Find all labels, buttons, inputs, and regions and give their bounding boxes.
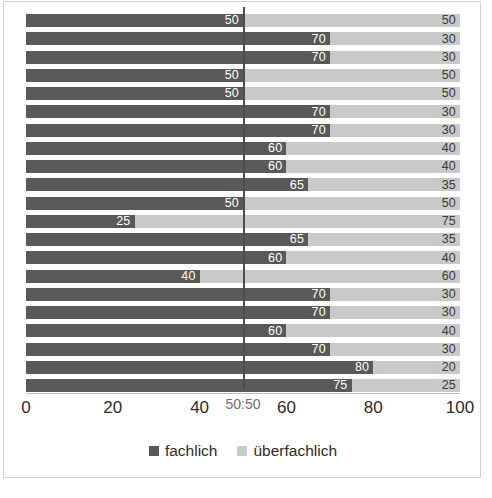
bar-value-label-ueberfachlich: 40 [442, 325, 460, 338]
bar-value-label-fachlich: 40 [181, 270, 199, 283]
x-axis-tick-label: 100 [446, 398, 474, 418]
bar-value-label-fachlich: 75 [333, 379, 351, 392]
bar-segment-fachlich: 60 [26, 251, 286, 264]
chart-root: 5050703070305050505070307030604060406535… [0, 0, 492, 498]
bar-segment-fachlich: 65 [26, 178, 308, 191]
bar-value-label-fachlich: 70 [311, 33, 329, 46]
bar-segment-ueberfachlich: 50 [243, 14, 460, 27]
bar-value-label-ueberfachlich: 50 [442, 69, 460, 82]
bar-value-label-fachlich: 50 [225, 87, 243, 100]
bar-segment-fachlich: 60 [26, 160, 286, 173]
bar-value-label-fachlich: 70 [311, 51, 329, 64]
bar-value-label-fachlich: 60 [268, 325, 286, 338]
bar-value-label-ueberfachlich: 50 [442, 197, 460, 210]
legend-swatch-icon [237, 446, 247, 456]
bar-segment-ueberfachlich: 50 [243, 87, 460, 100]
bar-segment-ueberfachlich: 30 [330, 105, 460, 118]
bar-segment-fachlich: 70 [26, 51, 330, 64]
bar-value-label-fachlich: 70 [311, 306, 329, 319]
bar-segment-ueberfachlich: 30 [330, 32, 460, 45]
bar-segment-ueberfachlich: 30 [330, 306, 460, 319]
bar-segment-ueberfachlich: 20 [373, 361, 460, 374]
legend-item: fachlich [149, 442, 218, 460]
bar-value-label-fachlich: 25 [116, 215, 134, 228]
bar-value-label-ueberfachlich: 30 [442, 106, 460, 119]
bar-value-label-ueberfachlich: 30 [442, 124, 460, 137]
bar-value-label-ueberfachlich: 50 [442, 14, 460, 27]
bar-segment-fachlich: 70 [26, 306, 330, 319]
bar-segment-ueberfachlich: 60 [200, 270, 460, 283]
bar-value-label-ueberfachlich: 25 [442, 379, 460, 392]
bar-segment-ueberfachlich: 50 [243, 69, 460, 82]
bar-segment-ueberfachlich: 40 [286, 142, 460, 155]
bar-segment-fachlich: 25 [26, 215, 135, 228]
x-axis-tick-label: 80 [364, 398, 383, 418]
bar-segment-fachlich: 65 [26, 233, 308, 246]
x-axis-tick-label: 0 [21, 398, 30, 418]
bar-segment-fachlich: 50 [26, 197, 243, 210]
bar-segment-ueberfachlich: 50 [243, 197, 460, 210]
bar-value-label-fachlich: 65 [290, 179, 308, 192]
bar-value-label-fachlich: 65 [290, 233, 308, 246]
x-axis-line [26, 393, 460, 394]
bar-segment-ueberfachlich: 40 [286, 160, 460, 173]
x-axis-tick-label: 60 [277, 398, 296, 418]
legend-label: fachlich [165, 442, 218, 460]
bar-value-label-fachlich: 60 [268, 252, 286, 265]
bar-segment-ueberfachlich: 30 [330, 343, 460, 356]
bar-value-label-ueberfachlich: 35 [442, 233, 460, 246]
bar-value-label-fachlich: 70 [311, 124, 329, 137]
x-axis-tick-label: 20 [103, 398, 122, 418]
bar-value-label-ueberfachlich: 75 [442, 215, 460, 228]
bar-segment-ueberfachlich: 35 [308, 233, 460, 246]
bar-value-label-ueberfachlich: 30 [442, 306, 460, 319]
bar-value-label-fachlich: 70 [311, 343, 329, 356]
bar-segment-fachlich: 40 [26, 270, 200, 283]
bar-segment-fachlich: 50 [26, 14, 243, 27]
bar-value-label-ueberfachlich: 40 [442, 160, 460, 173]
bar-value-label-ueberfachlich: 60 [442, 270, 460, 283]
bar-value-label-fachlich: 60 [268, 160, 286, 173]
bar-segment-fachlich: 60 [26, 324, 286, 337]
bar-segment-fachlich: 70 [26, 105, 330, 118]
legend-label: überfachlich [253, 442, 337, 460]
x-axis-tick-labels: 02040608010050:50 [4, 398, 482, 424]
bar-segment-fachlich: 80 [26, 361, 373, 374]
bar-segment-ueberfachlich: 35 [308, 178, 460, 191]
bar-value-label-ueberfachlich: 30 [442, 51, 460, 64]
bar-value-label-ueberfachlich: 20 [442, 361, 460, 374]
bar-value-label-fachlich: 50 [225, 69, 243, 82]
bar-segment-fachlich: 70 [26, 124, 330, 137]
bar-segment-ueberfachlich: 30 [330, 51, 460, 64]
bar-value-label-fachlich: 60 [268, 142, 286, 155]
x-axis-tick-label: 40 [190, 398, 209, 418]
bar-value-label-fachlich: 50 [225, 14, 243, 27]
bar-value-label-fachlich: 70 [311, 288, 329, 301]
legend-item: überfachlich [237, 442, 337, 460]
bar-segment-fachlich: 75 [26, 379, 352, 392]
bar-segment-ueberfachlich: 40 [286, 251, 460, 264]
bar-value-label-ueberfachlich: 30 [442, 288, 460, 301]
chart-legend: fachlichüberfachlich [4, 442, 482, 460]
bar-value-label-ueberfachlich: 40 [442, 252, 460, 265]
bar-segment-fachlich: 70 [26, 32, 330, 45]
bar-segment-ueberfachlich: 25 [352, 379, 461, 392]
bar-segment-fachlich: 60 [26, 142, 286, 155]
bar-segment-ueberfachlich: 75 [135, 215, 461, 228]
bar-segment-ueberfachlich: 30 [330, 288, 460, 301]
legend-swatch-icon [149, 446, 159, 456]
bar-segment-ueberfachlich: 40 [286, 324, 460, 337]
bar-segment-ueberfachlich: 30 [330, 124, 460, 137]
bar-segment-fachlich: 50 [26, 87, 243, 100]
reference-line-label: 50:50 [225, 396, 260, 412]
bar-value-label-ueberfachlich: 40 [442, 142, 460, 155]
bar-value-label-ueberfachlich: 30 [442, 33, 460, 46]
bar-value-label-fachlich: 80 [355, 361, 373, 374]
bar-value-label-fachlich: 70 [311, 106, 329, 119]
reference-line-50-50 [243, 7, 245, 389]
bar-value-label-ueberfachlich: 35 [442, 179, 460, 192]
bar-value-label-ueberfachlich: 50 [442, 87, 460, 100]
chart-frame: 5050703070305050505070307030604060406535… [3, 1, 481, 478]
bar-segment-fachlich: 50 [26, 69, 243, 82]
bar-segment-fachlich: 70 [26, 288, 330, 301]
